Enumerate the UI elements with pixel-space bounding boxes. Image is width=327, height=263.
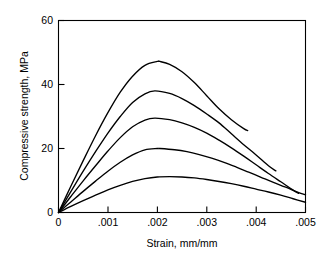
- xtick-label-3: .003: [197, 216, 218, 228]
- xtick-label-2: .002: [147, 216, 168, 228]
- compressive-strength-strain-chart: 0 20 40 60 0 .001 .002 .003 .004 .005 Co…: [0, 0, 327, 263]
- ytick-label-20: 20: [41, 142, 53, 154]
- ytick-label-40: 40: [41, 78, 53, 90]
- xtick-label-4: .004: [246, 216, 267, 228]
- xtick-label-1: .001: [98, 216, 119, 228]
- xtick-label-5: .005: [295, 216, 316, 228]
- y-axis-title: Compressive strength, MPa: [18, 51, 30, 181]
- ytick-label-0: 0: [47, 206, 53, 218]
- xtick-label-0: 0: [56, 216, 62, 228]
- x-axis-title: Strain, mm/mm: [146, 237, 217, 249]
- ytick-label-60: 60: [41, 14, 53, 26]
